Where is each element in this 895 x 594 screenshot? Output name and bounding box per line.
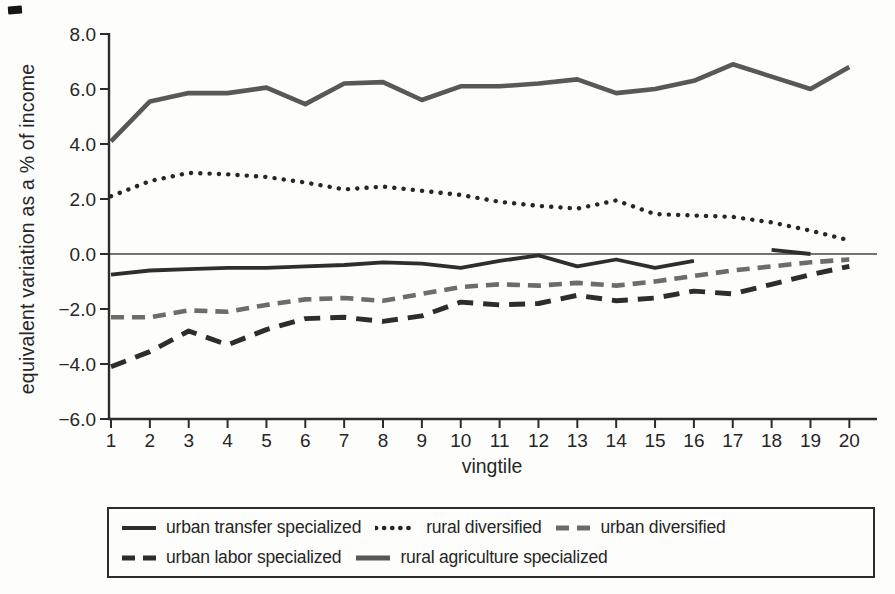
legend-item-rural-diversified: rural diversified [375,517,541,538]
legend-label: rural agriculture specialized [400,547,607,568]
y-axis-title: equivalent variation as a % of income [16,64,39,394]
y-tick-label: 4.0 [70,134,96,155]
x-tick-label: 7 [339,430,350,451]
y-tick-label: 2.0 [70,189,96,210]
y-tick-label: 6.0 [70,79,96,100]
x-tick-label: 4 [222,430,233,451]
legend-item-rural-agriculture-specialized: rural agriculture specialized [355,547,607,568]
legend-row-2: urban labor specialized rural agricultur… [121,547,873,568]
x-tick-label: 9 [417,430,428,451]
x-tick-label: 17 [722,430,743,451]
x-tick-label: 11 [490,430,510,451]
y-tick-label: −6.0 [58,409,96,430]
y-tick-label: −4.0 [58,354,96,375]
legend-item-urban-transfer-specialized: urban transfer specialized [121,517,361,538]
x-tick-label: 20 [839,430,860,451]
legend-swatch-dotted-line [375,523,417,533]
x-tick-label: 19 [800,430,821,451]
legend-swatch-gray-dashed-line [555,523,591,533]
x-tick-label: 3 [183,430,194,451]
x-tick-label: 6 [300,430,311,451]
legend-label: urban diversified [600,517,725,538]
x-tick-label: 16 [683,430,704,451]
legend-item-urban-labor-specialized: urban labor specialized [121,547,341,568]
legend-label: rural diversified [426,517,541,538]
x-tick-label: 18 [761,430,782,451]
x-axis-title: vingtile [462,455,523,478]
legend-row-1: urban transfer specialized rural diversi… [121,517,873,538]
y-tick-label: −2.0 [58,299,96,320]
y-tick-label: 0.0 [70,244,96,265]
x-tick-label: 12 [528,430,549,451]
x-tick-label: 2 [145,430,156,451]
legend-item-urban-diversified: urban diversified [555,517,725,538]
x-tick-label: 8 [378,430,389,451]
plot-area: 8.06.04.02.00.0−2.0−4.0−6.01234567891011… [0,0,895,594]
legend-swatch-solid-gray-line [355,553,391,563]
series-line-3 [111,266,849,366]
series-line-1 [111,173,849,240]
legend-label: urban labor specialized [166,547,341,568]
legend-swatch-solid-dark-line [121,523,157,533]
legend-swatch-dark-dashed-line [121,553,157,563]
legend-label: urban transfer specialized [166,517,361,538]
x-tick-label: 1 [106,430,117,451]
series-line-4 [111,64,849,141]
x-tick-label: 14 [606,430,628,451]
x-tick-label: 5 [261,430,272,451]
chart-figure: 8.06.04.02.00.0−2.0−4.0−6.01234567891011… [0,0,895,594]
legend: urban transfer specialized rural diversi… [107,507,875,578]
x-tick-label: 15 [644,430,665,451]
x-tick-label: 10 [450,430,471,451]
y-tick-label: 8.0 [70,24,96,45]
x-tick-label: 13 [567,430,588,451]
